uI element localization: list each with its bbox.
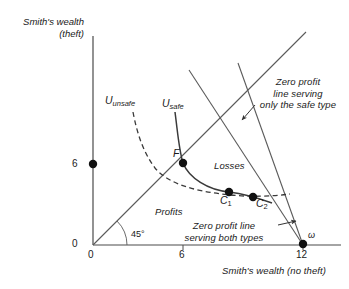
c1-subscript: 1 [228,199,232,208]
c1-symbol: C [220,194,228,206]
point-label-c2: C2 [256,197,268,211]
u-safe-curve [175,112,272,203]
u-unsafe-label: Uunsafe [105,94,135,108]
annotation-both-line-2: serving both types [185,232,264,243]
annotation-safe-line: Zero profitline servingonly the safe typ… [249,76,347,111]
u-safe-subscript: safe [170,102,184,111]
forty-five-degree-line [93,32,306,245]
annotation-safe-line-3: only the safe type [260,99,336,110]
economics-diagram: Smith's wealth(theft) Smith's wealth (no… [0,0,349,289]
annotation-both-line: Zero profit lineserving both types [165,220,283,243]
point-f [179,159,187,167]
y-axis-title: Smith's wealth(theft) [8,16,84,40]
u-unsafe-curve [133,112,290,196]
u-safe-label: Usafe [162,97,184,111]
diagram-canvas [0,0,349,289]
point-label-c1: C1 [220,194,232,208]
x-axis-title: Smith's wealth (no theft) [222,265,326,277]
angle-label: 45° [131,229,145,239]
u-safe-symbol: U [162,97,170,109]
u-unsafe-subscript: unsafe [113,99,136,108]
c2-symbol: C [256,197,264,209]
region-label-profits: Profits [155,206,183,218]
annotation-safe-line-2: line serving [273,88,322,99]
point-label-omega: ω [308,230,315,240]
annotation-safe-line-1: Zero profit [276,76,320,87]
y-tick-label-6: 6 [72,158,78,169]
c2-subscript: 2 [264,202,268,211]
y-axis-title-line1: Smith's wealth [23,16,84,27]
point-label-f: F [173,147,179,159]
annotation-both-line-1: Zero profit line [193,220,255,231]
x-tick-label-0: 0 [88,249,94,260]
point-y-axis-six [89,160,97,168]
point-omega [299,240,307,248]
x-tick-label-6: 6 [179,249,185,260]
y-axis-title-line2: (theft) [59,28,84,39]
y-tick-label-0: 0 [72,238,78,249]
x-tick-label-12: 12 [296,249,307,260]
region-label-losses: Losses [214,160,245,172]
angle-arc [117,221,127,245]
u-unsafe-symbol: U [105,94,113,106]
